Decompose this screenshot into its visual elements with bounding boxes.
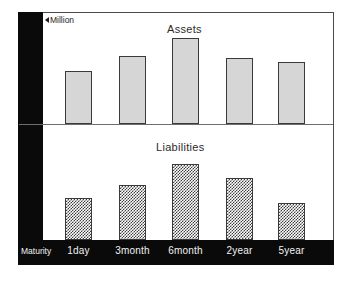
bar-assets-5year	[278, 62, 305, 124]
bar-assets-3month	[119, 56, 146, 124]
bar-assets-1day	[65, 71, 92, 124]
axis-label-6month: 6month	[168, 245, 203, 256]
bar-liabilities-5year	[278, 203, 305, 240]
bar-assets-6month	[172, 38, 199, 124]
bar-liabilities-1day	[65, 198, 92, 240]
assets-panel-title: Assets	[167, 23, 202, 35]
bar-liabilities-2year	[226, 178, 253, 240]
maturity-axis-title: Maturity	[21, 246, 51, 256]
axis-label-3month: 3month	[115, 245, 150, 256]
bar-liabilities-6month	[172, 164, 199, 240]
liabilities-panel-title: Liabilities	[156, 141, 205, 153]
axis-label-2year: 2year	[226, 245, 252, 256]
bar-liabilities-3month	[119, 185, 146, 240]
axis-label-5year: 5year	[278, 245, 304, 256]
bar-assets-2year	[226, 58, 253, 124]
chart-figure: Million Assets Liabilities Maturity 1day…	[0, 0, 350, 281]
maturity-axis-band-left	[18, 12, 43, 265]
axis-label-1day: 1day	[67, 245, 90, 256]
